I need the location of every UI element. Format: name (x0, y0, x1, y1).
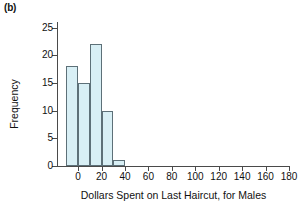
x-tick-label: 100 (187, 172, 204, 182)
x-tick-label: 60 (143, 172, 154, 182)
y-tick-label: 0 (47, 161, 53, 171)
histogram-bar (102, 111, 114, 166)
plot-area (57, 22, 289, 166)
y-tick-label: 5 (47, 133, 53, 143)
x-tick-label: 80 (166, 172, 177, 182)
histogram-figure: (b) Frequency Dollars Spent on Last Hair… (0, 0, 301, 208)
x-tick-label: 180 (281, 172, 298, 182)
x-tick-label: 40 (119, 172, 130, 182)
histogram-bar (113, 160, 125, 166)
histogram-bar (78, 83, 90, 166)
x-axis-spine (57, 166, 290, 167)
x-tick-label: 120 (210, 172, 227, 182)
y-axis-title: Frequency (9, 79, 20, 129)
x-tick-label: 20 (96, 172, 107, 182)
y-tick-label: 25 (42, 23, 53, 33)
panel-label: (b) (4, 3, 16, 13)
histogram-bar (66, 66, 78, 166)
histogram-bar (90, 44, 102, 166)
x-tick-label: 0 (75, 172, 81, 182)
x-axis-title: Dollars Spent on Last Haircut, for Males (57, 190, 290, 201)
y-tick-label: 10 (42, 106, 53, 116)
x-tick-label: 140 (234, 172, 251, 182)
x-tick-label: 160 (257, 172, 274, 182)
y-tick-label: 15 (42, 78, 53, 88)
y-tick-label: 20 (42, 50, 53, 60)
